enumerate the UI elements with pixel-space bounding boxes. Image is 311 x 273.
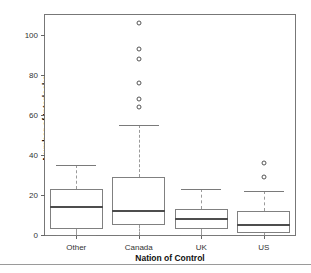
y-tick-label: 0 [34, 231, 38, 240]
box-iqr [237, 211, 290, 233]
y-tick-label: 40 [29, 151, 38, 160]
y-tick-label: 60 [29, 111, 38, 120]
y-tick-label: 20 [29, 191, 38, 200]
bottom-divider [0, 264, 311, 265]
y-tick-label: 100 [25, 31, 38, 40]
y-axis-title-wrapper: Number of Interlocks [0, 0, 22, 236]
whisker-cap-lower [181, 235, 221, 236]
plot-area: 020406080100 OtherCanadaUKUS [44, 14, 296, 236]
x-tick-label-canada: Canada [125, 243, 153, 252]
whisker-cap-lower [56, 235, 96, 236]
whisker-upper [264, 191, 265, 211]
y-tick-label: 80 [29, 71, 38, 80]
chart-canvas: Number of Interlocks 020406080100 OtherC… [0, 0, 311, 273]
x-tick-label-uk: UK [196, 243, 207, 252]
whisker-cap-lower [119, 235, 159, 236]
x-axis-title: Nation of Control [44, 253, 296, 263]
x-tick-label-us: US [258, 243, 269, 252]
whisker-cap-lower [244, 235, 284, 236]
outlier-point [261, 175, 266, 180]
whisker-cap-upper [244, 191, 284, 192]
x-tick-label-other: Other [66, 243, 86, 252]
outlier-point [261, 161, 266, 166]
box-group-us [45, 15, 295, 235]
median-line [237, 224, 290, 226]
y-tick-mark [41, 235, 45, 236]
